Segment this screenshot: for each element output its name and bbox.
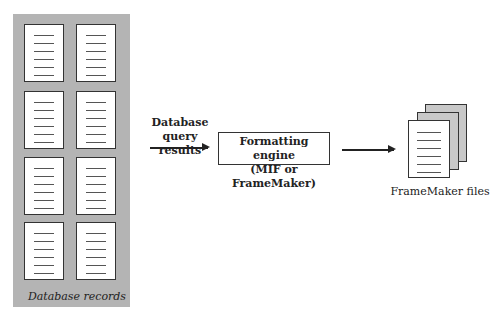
record-icon (24, 157, 64, 215)
database-records-caption: Database records (28, 290, 126, 303)
record-icon (76, 91, 116, 149)
record-icon (76, 222, 116, 280)
document-icon (408, 120, 450, 178)
query-results-label: Database query results (145, 116, 215, 158)
label-line: Database (145, 116, 215, 130)
engine-line: (MIF or FrameMaker) (219, 163, 329, 191)
arrow-icon (342, 149, 394, 151)
record-icon (24, 24, 64, 82)
database-records-panel: Database records (13, 14, 130, 307)
formatting-engine-box: Formatting engine (MIF or FrameMaker) (218, 132, 330, 165)
record-icon (24, 222, 64, 280)
framemaker-files-label: FrameMaker files (385, 185, 494, 199)
record-icon (24, 91, 64, 149)
engine-line: Formatting engine (219, 135, 329, 163)
record-icon (76, 157, 116, 215)
arrow-icon (150, 147, 208, 149)
record-icon (76, 24, 116, 82)
